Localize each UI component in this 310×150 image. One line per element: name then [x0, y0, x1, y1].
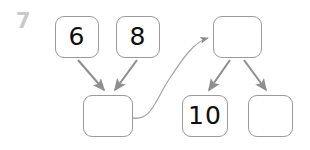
node-eight-label: 8 — [130, 24, 147, 51]
node-six-label: 6 — [69, 24, 86, 51]
edge-right-root-to-ten — [209, 60, 230, 90]
edge-right-root-to-right-empty — [244, 60, 266, 90]
node-six[interactable]: 6 — [55, 16, 99, 58]
node-left-child-empty[interactable] — [83, 95, 133, 137]
node-ten-label: 10 — [188, 103, 222, 130]
node-right-root-empty[interactable] — [213, 16, 262, 58]
node-ten[interactable]: 10 — [182, 95, 228, 137]
edge-six-to-left-child — [78, 60, 104, 90]
edge-eight-to-left-child — [115, 60, 137, 90]
node-eight[interactable]: 8 — [116, 16, 160, 58]
node-right-empty[interactable] — [248, 95, 293, 137]
diagram-canvas: 7 6 8 10 — [0, 0, 310, 150]
